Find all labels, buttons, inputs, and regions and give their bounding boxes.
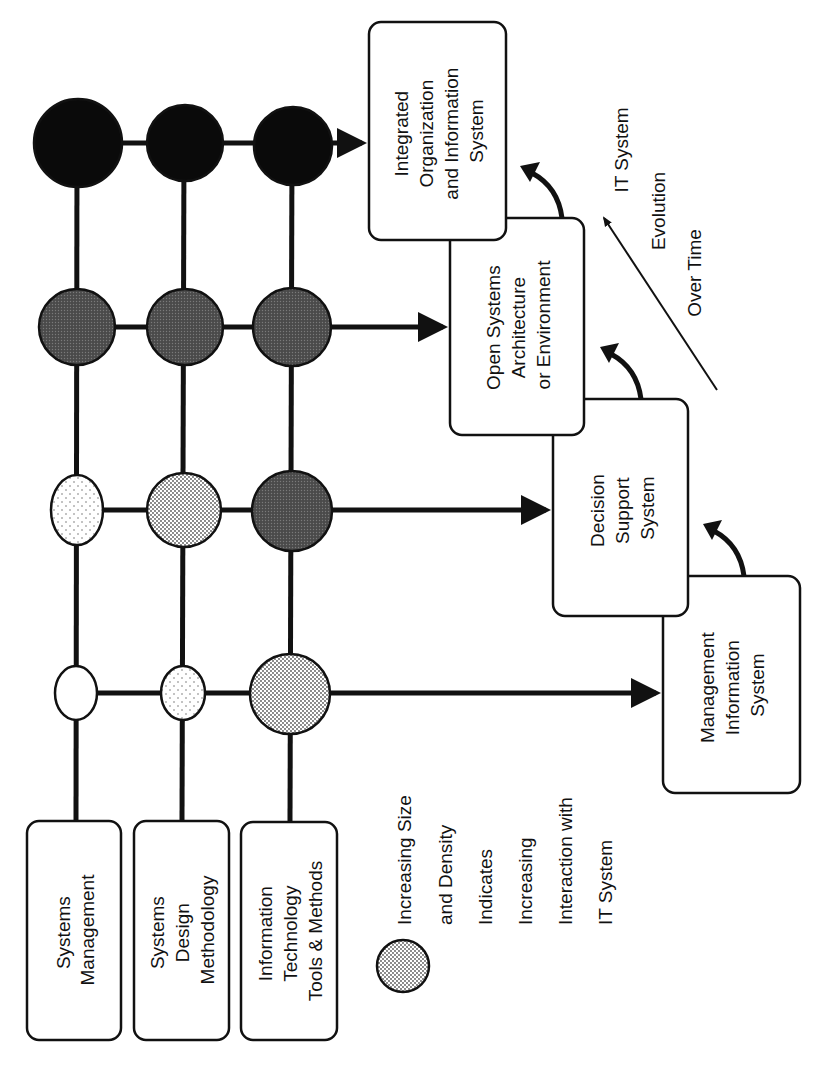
evolution-label-line-1: IT System xyxy=(611,107,632,192)
input-box-systems-management: Systems Management xyxy=(27,821,121,1040)
legend-line: Increasing xyxy=(515,837,536,925)
row-mis-nodes xyxy=(55,654,330,734)
curved-arrow-icon xyxy=(532,173,562,218)
box-label-line: Support xyxy=(612,477,633,544)
evolution-arrow: IT System Evolution Over Time xyxy=(604,107,717,390)
row-integrated-nodes xyxy=(34,99,332,187)
box-label-line: Technology xyxy=(280,885,301,982)
box-label-line: System xyxy=(637,476,658,539)
node-white-icon xyxy=(55,666,97,720)
box-label-line: Tools & Methods xyxy=(305,861,326,1001)
node-black-icon xyxy=(34,99,122,187)
curved-arrow-icon xyxy=(611,354,641,399)
node-black-icon xyxy=(254,107,332,185)
legend-line: Indicates xyxy=(475,849,496,925)
diagram-canvas: Systems Management Systems Design Method… xyxy=(0,0,827,1070)
node-light-sparse-icon xyxy=(161,666,205,720)
curved-arrow-icon xyxy=(714,531,744,576)
legend-circle-icon xyxy=(377,940,429,992)
box-label-line: Methodology xyxy=(197,875,218,984)
node-dark-icon xyxy=(147,289,223,365)
box-label-line: Architecture xyxy=(508,277,529,378)
node-dark-icon xyxy=(253,288,331,366)
box-label-line: Information xyxy=(722,640,743,735)
box-label-line: Systems xyxy=(53,896,74,969)
svg-text:Open Systems Architectur: Open Systems Architecture or Environment xyxy=(483,260,554,390)
box-label-line: Management xyxy=(77,874,98,986)
stage-box-integrated: Integrated Organization and Information … xyxy=(369,22,506,240)
box-label-line: System xyxy=(466,99,487,162)
input-box-it-tools-methods: Information Technology Tools & Methods xyxy=(241,822,337,1040)
node-black-icon xyxy=(147,105,223,181)
box-label-line: Integrated xyxy=(391,91,412,177)
box-label-line: and Information xyxy=(441,68,462,200)
box-label-line: Information xyxy=(255,886,276,981)
evolution-label-line-3: Over Time xyxy=(684,229,705,317)
legend-line: Increasing Size xyxy=(394,795,415,925)
stage-box-open-systems: Open Systems Architecture or Environment xyxy=(450,218,584,435)
box-label-line: Organization xyxy=(416,80,437,188)
node-light-icon xyxy=(147,473,221,547)
node-light-sparse-icon xyxy=(51,475,103,545)
node-light-icon xyxy=(250,654,330,734)
evolution-label-line-2: Evolution xyxy=(648,172,669,250)
node-dark-icon xyxy=(252,471,332,551)
box-label-line: Management xyxy=(697,631,718,743)
legend-line: Interaction with xyxy=(555,797,576,925)
svg-text:Decision Support S: Decision Support System xyxy=(587,469,658,547)
node-dark-icon xyxy=(39,289,115,365)
box-label-line: or Environment xyxy=(533,260,554,390)
row-decision-support-nodes xyxy=(51,471,332,551)
box-label-line: System xyxy=(747,653,768,716)
box-label-line: Design xyxy=(172,903,193,962)
legend-line: and Density xyxy=(435,824,456,925)
box-label-line: Decision xyxy=(587,474,608,547)
legend: Increasing Size and Density Indicates In… xyxy=(377,795,616,992)
box-label-line: Systems xyxy=(147,896,168,969)
svg-text:Information Technology: Information Technology Tools & Methods xyxy=(255,861,326,1001)
box-label-line: Open Systems xyxy=(483,265,504,390)
legend-line: IT System xyxy=(595,840,616,925)
input-box-systems-design-methodology: Systems Design Methodology xyxy=(134,821,229,1040)
row-open-systems-nodes xyxy=(39,288,331,366)
